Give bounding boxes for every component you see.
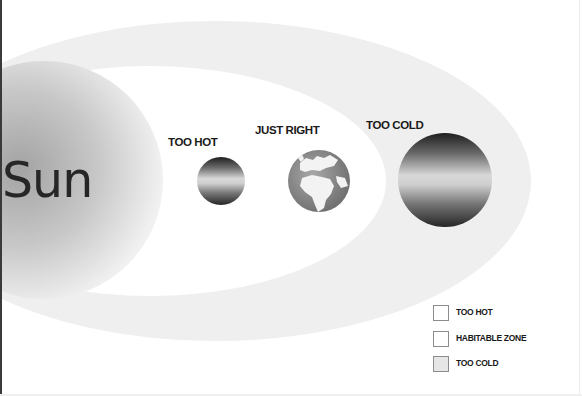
too-cold-swatch	[433, 356, 449, 372]
legend-label: TOO COLD	[456, 358, 498, 368]
habitable-zone-swatch	[433, 331, 449, 347]
diagram-canvas: Sun TOO HOT JUST RIGHT TOO COLD TOO HOT …	[0, 0, 582, 396]
legend-item-too-hot: TOO HOT	[433, 305, 573, 323]
legend-label: TOO HOT	[456, 307, 492, 317]
earth-globe-icon	[288, 150, 350, 212]
legend-item-too-cold: TOO COLD	[433, 356, 573, 374]
legend-item-habitable-zone: HABITABLE ZONE	[433, 331, 573, 349]
too-hot-label: TOO HOT	[168, 136, 217, 148]
too-hot-planet	[197, 157, 245, 205]
right-border	[579, 0, 580, 396]
left-border	[0, 0, 2, 396]
just-right-label: JUST RIGHT	[255, 124, 319, 136]
legend-label: HABITABLE ZONE	[456, 333, 526, 343]
too-cold-label: TOO COLD	[366, 119, 423, 131]
too-cold-planet	[398, 133, 492, 227]
sun-label: Sun	[2, 152, 92, 209]
too-hot-swatch	[433, 305, 449, 321]
